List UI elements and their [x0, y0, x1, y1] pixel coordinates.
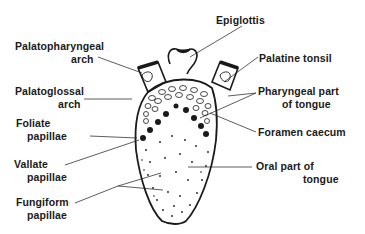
right-tonsil	[212, 62, 238, 90]
label-palatopharyngeal-arch: Palatopharyngeal arch	[15, 40, 104, 66]
left-tonsil	[138, 62, 166, 92]
tongue-outline	[136, 80, 217, 225]
label-foliate-papillae: Foliate papillae	[16, 117, 67, 143]
label-oral-part: Oral part of tongue	[256, 160, 339, 186]
label-palatoglossal-arch: Palatoglossal arch	[15, 85, 84, 111]
label-pharyngeal-part: Pharyngeal part of tongue	[258, 85, 339, 111]
label-palatine-tonsil: Palatine tonsil	[259, 52, 332, 65]
label-epiglottis: Epiglottis	[216, 14, 265, 27]
label-fungiform-papillae: Fungiform papillae	[16, 196, 69, 222]
label-foramen-caecum: Foramen caecum	[258, 126, 346, 139]
label-vallate-papillae: Vallate papillae	[14, 158, 67, 184]
